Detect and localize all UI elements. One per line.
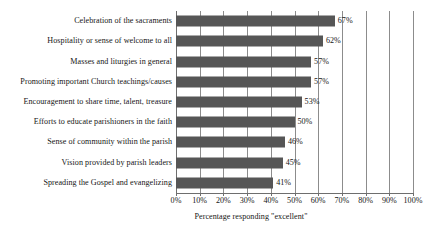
x-tick-label: 40%	[263, 197, 278, 205]
x-axis-title: Percentage responding "excellent"	[0, 213, 438, 221]
bar-value-label: 50%	[295, 118, 313, 126]
category-label: Spreading the Gospel and evangelizing	[43, 179, 172, 187]
x-axis-title-label: Percentage responding "excellent"	[195, 213, 308, 221]
bar	[176, 157, 283, 168]
x-tick-label: 80%	[358, 197, 373, 205]
bar-value-label: 62%	[323, 37, 341, 45]
x-tick-label: 60%	[311, 197, 326, 205]
bar-track: 67%	[176, 11, 413, 31]
chart-row: Celebration of the sacraments67%	[0, 11, 438, 31]
x-tick-label: 0%	[171, 197, 182, 205]
chart-row: Efforts to educate parishioners in the f…	[0, 112, 438, 132]
bar	[176, 56, 311, 67]
bar	[176, 137, 285, 148]
bar	[176, 117, 295, 128]
category-label: Celebration of the sacraments	[74, 17, 172, 25]
bar-track: 41%	[176, 173, 413, 193]
bar-value-label: 57%	[311, 58, 329, 66]
x-tick-label: 30%	[240, 197, 255, 205]
bar-value-label: 67%	[335, 17, 353, 25]
bar-track: 62%	[176, 31, 413, 51]
bar	[176, 16, 335, 27]
bar-value-label: 45%	[283, 159, 301, 167]
chart-row: Promoting important Church teachings/cau…	[0, 72, 438, 92]
x-tick-label: 100%	[404, 197, 423, 205]
bar	[176, 177, 273, 188]
bar-track: 45%	[176, 153, 413, 173]
bar-value-label: 41%	[273, 179, 291, 187]
x-tick-label: 50%	[287, 197, 302, 205]
category-label: Vision provided by parish leaders	[62, 159, 172, 167]
bar-track: 57%	[176, 72, 413, 92]
bar-value-label: 53%	[302, 98, 320, 106]
chart-row: Hospitality or sense of welcome to all62…	[0, 31, 438, 51]
category-label: Promoting important Church teachings/cau…	[20, 78, 172, 86]
bar-value-label: 57%	[311, 78, 329, 86]
bar-track: 53%	[176, 92, 413, 112]
chart-row: Encouragement to share time, talent, tre…	[0, 92, 438, 112]
x-tick-label: 20%	[216, 197, 231, 205]
x-tick-label: 90%	[382, 197, 397, 205]
chart-rows: Celebration of the sacraments67%Hospital…	[0, 11, 438, 193]
chart-row: Spreading the Gospel and evangelizing41%	[0, 173, 438, 193]
bar-chart: Celebration of the sacraments67%Hospital…	[0, 0, 438, 234]
category-label: Efforts to educate parishioners in the f…	[34, 118, 172, 126]
bar	[176, 96, 302, 107]
bar-track: 46%	[176, 132, 413, 152]
category-label: Encouragement to share time, talent, tre…	[23, 98, 172, 106]
chart-row: Vision provided by parish leaders45%	[0, 153, 438, 173]
bar-track: 57%	[176, 51, 413, 71]
bar	[176, 76, 311, 87]
category-label: Hospitality or sense of welcome to all	[47, 37, 172, 45]
chart-row: Sense of community within the parish46%	[0, 132, 438, 152]
bar-value-label: 46%	[285, 138, 303, 146]
category-label: Masses and liturgies in general	[70, 58, 172, 66]
x-tick-label: 10%	[192, 197, 207, 205]
category-label: Sense of community within the parish	[47, 138, 172, 146]
bar-track: 50%	[176, 112, 413, 132]
x-tick-label: 70%	[334, 197, 349, 205]
bar	[176, 36, 323, 47]
chart-row: Masses and liturgies in general57%	[0, 51, 438, 71]
